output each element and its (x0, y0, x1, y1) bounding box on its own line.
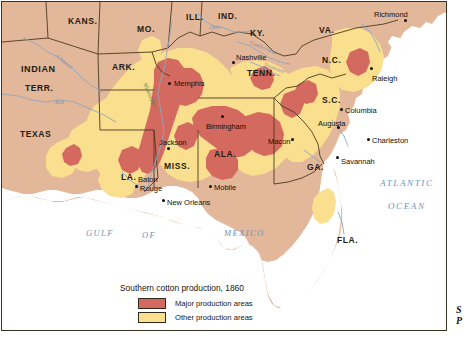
city-dot (370, 67, 373, 70)
city-dot (337, 126, 340, 129)
city-dot (209, 185, 212, 188)
city-dot (291, 138, 294, 141)
legend-label: Major production areas (175, 299, 253, 308)
legend-title: Southern cotton production, 1860 (120, 283, 253, 293)
side-caption: S P (456, 304, 462, 326)
city-dot (336, 156, 339, 159)
lake-okeechobee (290, 278, 306, 296)
legend-entries: Major production areasOther production a… (120, 298, 253, 323)
legend-label: Other production areas (175, 313, 253, 322)
side-caption-line2: P (456, 315, 462, 326)
map-canvas (2, 2, 446, 330)
map-legend: Southern cotton production, 1860 Major p… (120, 283, 253, 326)
screenshot-root: KANS.MO.ILL.IND.KY.VA.INDIANTERR.ARK.TEN… (0, 0, 474, 345)
map-frame: KANS.MO.ILL.IND.KY.VA.INDIANTERR.ARK.TEN… (1, 1, 447, 331)
city-dot (404, 19, 407, 22)
city-dot (367, 138, 370, 141)
legend-swatch (138, 298, 166, 309)
city-dot (162, 199, 165, 202)
legend-entry: Other production areas (138, 312, 253, 323)
city-dot (232, 61, 235, 64)
city-dot (167, 147, 170, 150)
city-dot (135, 185, 138, 188)
city-dot (221, 115, 224, 118)
map-svg (2, 2, 446, 330)
legend-entry: Major production areas (138, 298, 253, 309)
side-caption-line1: S (456, 304, 462, 315)
city-dot (168, 82, 171, 85)
legend-swatch (138, 312, 166, 323)
city-dot (340, 108, 343, 111)
